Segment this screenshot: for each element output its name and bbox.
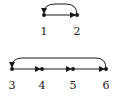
edge-2-1-arc [44,4,77,15]
diagram-canvas: 1 2 3 4 5 6 [0,0,119,100]
node-1 [42,13,46,17]
node-6 [104,67,108,71]
node-3 [10,67,14,71]
node-5 [71,67,75,71]
bottom-graph: 3 4 5 6 [9,58,110,92]
node-4 [40,67,44,71]
node-3-label: 3 [9,79,16,92]
node-2 [75,13,79,17]
edge-6-3-arc [12,58,106,69]
node-1-label: 1 [41,25,48,38]
node-2-label: 2 [74,25,81,38]
top-graph: 1 2 [41,4,81,38]
node-4-label: 4 [39,79,46,92]
node-5-label: 5 [70,79,77,92]
node-6-label: 6 [103,79,110,92]
